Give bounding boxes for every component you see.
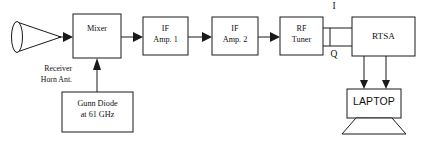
block-if-amp-2-label: IF Amp. 2 [212, 24, 258, 45]
block-if-amp-1-label-line2: Amp. 1 [143, 35, 188, 46]
antenna-label-line2: Horn Ant. [0, 75, 72, 86]
block-if-amp-1-label: IF Amp. 1 [143, 24, 188, 45]
link-rtsa-to-laptop-left [360, 56, 368, 89]
block-mixer-label: Mixer [73, 25, 121, 34]
link-if-amp-2-to-rf-tuner [258, 32, 280, 42]
link-if-amp-1-to-if-amp-2 [188, 32, 212, 42]
block-if-amp-2-label-line2: Amp. 2 [212, 35, 258, 46]
block-gunn-diode-label-line1: Gunn Diode [62, 99, 133, 110]
signal-label-i: I [326, 1, 342, 11]
link-rtsa-to-laptop-right [382, 56, 390, 89]
block-gunn-diode-label-line2: at 61 GHz [62, 110, 133, 121]
horn-antenna-icon [12, 22, 62, 53]
block-rf-tuner-label: RF Tuner [280, 24, 323, 45]
link-gunn-diode-to-mixer [93, 58, 101, 92]
antenna-label-line1: Receiver [0, 64, 72, 75]
signal-label-q: Q [326, 49, 342, 59]
block-rtsa-label: RTSA [352, 32, 415, 42]
block-rf-tuner-label-line2: Tuner [280, 35, 323, 46]
block-diagram: Mixer IF Amp. 1 IF Amp. 2 RF Tuner RTSA … [0, 0, 425, 142]
block-gunn-diode-label: Gunn Diode at 61 GHz [62, 99, 133, 120]
block-laptop-label: LAPTOP [347, 96, 401, 107]
link-antenna-to-mixer [58, 32, 73, 42]
block-rf-tuner-label-line1: RF [280, 24, 323, 35]
block-mixer [73, 14, 121, 58]
link-mixer-to-if-amp-1 [121, 32, 143, 42]
antenna-label: Receiver Horn Ant. [0, 64, 72, 85]
block-if-amp-1-label-line1: IF [143, 24, 188, 35]
block-if-amp-2-label-line1: IF [212, 24, 258, 35]
